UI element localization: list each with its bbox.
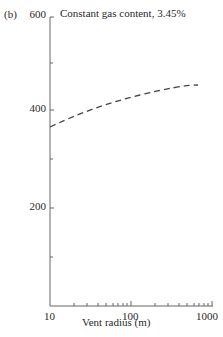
velocity-curve [50,85,198,127]
plot-area [0,0,223,337]
axes [50,17,213,306]
